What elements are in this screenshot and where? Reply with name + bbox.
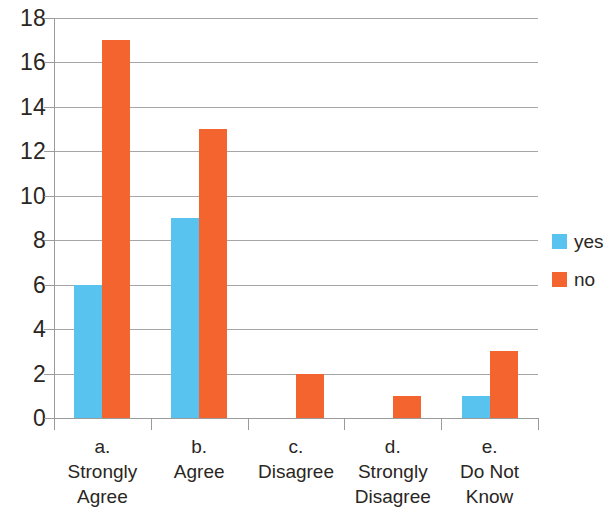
y-axis-tick xyxy=(44,418,54,419)
y-axis-tick-label: 12 xyxy=(4,140,46,163)
y-axis-tick-label: 8 xyxy=(4,229,46,252)
y-axis-tick xyxy=(44,240,54,241)
y-axis-tick xyxy=(44,285,54,286)
bar-no-0 xyxy=(102,40,130,418)
x-axis-category-line: a. xyxy=(54,434,151,459)
x-axis-tick xyxy=(248,419,249,430)
bar-no-1 xyxy=(199,129,227,418)
x-axis-category-line: e. xyxy=(441,434,538,459)
x-axis-category-line: Strongly xyxy=(54,459,151,484)
y-axis-tick xyxy=(44,107,54,108)
legend-label-no: no xyxy=(574,270,595,289)
y-axis-tick-label: 10 xyxy=(4,184,46,207)
x-axis-tick xyxy=(344,419,345,430)
x-axis-category-label: e.Do NotKnow xyxy=(441,434,538,509)
bar-no-2 xyxy=(296,374,324,418)
y-axis-tick-label: 4 xyxy=(4,318,46,341)
bar-yes-4 xyxy=(462,396,490,418)
x-axis-category-label: d.StronglyDisagree xyxy=(344,434,441,509)
y-axis-tick-label: 16 xyxy=(4,51,46,74)
x-axis-category-label: b.Agree xyxy=(151,434,248,484)
bar-chart: 181614121086420 a.StronglyAgreeb.Agreec.… xyxy=(0,0,616,515)
x-axis-category-line: Agree xyxy=(151,459,248,484)
x-axis-category-line: Do Not xyxy=(441,459,538,484)
y-axis-tick-label: 2 xyxy=(4,362,46,385)
plot-area xyxy=(54,18,538,418)
y-axis: 181614121086420 xyxy=(0,0,46,515)
y-axis-tick xyxy=(44,374,54,375)
legend-swatch-yes xyxy=(552,234,567,249)
x-axis-category-line: Agree xyxy=(54,484,151,509)
y-axis-tick-label: 18 xyxy=(4,7,46,30)
x-axis-category-label: a.StronglyAgree xyxy=(54,434,151,509)
legend-item-yes[interactable]: yes xyxy=(552,232,604,250)
x-axis-category-label: c.Disagree xyxy=(248,434,345,484)
y-axis-tick xyxy=(44,196,54,197)
x-axis-tick xyxy=(538,419,539,430)
bar-no-4 xyxy=(490,351,518,418)
legend-swatch-no xyxy=(552,272,567,287)
y-axis-tick-label: 0 xyxy=(4,407,46,430)
y-axis-tick-label: 6 xyxy=(4,273,46,296)
bar-yes-0 xyxy=(74,285,102,418)
x-axis-category-line: d. xyxy=(344,434,441,459)
x-axis-category-line: Disagree xyxy=(344,484,441,509)
x-axis-category-line: Disagree xyxy=(248,459,345,484)
y-axis-line xyxy=(54,18,55,419)
x-axis-category-line: Strongly xyxy=(344,459,441,484)
x-axis: a.StronglyAgreeb.Agreec.Disagreed.Strong… xyxy=(54,434,538,515)
y-axis-tick xyxy=(44,151,54,152)
y-axis-tick xyxy=(44,62,54,63)
x-axis-tick xyxy=(441,419,442,430)
x-axis-category-line: b. xyxy=(151,434,248,459)
y-axis-tick-label: 14 xyxy=(4,95,46,118)
bar-no-3 xyxy=(393,396,421,418)
legend-item-no[interactable]: no xyxy=(552,270,595,288)
y-axis-tick xyxy=(44,329,54,330)
x-axis-line xyxy=(44,418,539,419)
bar-yes-1 xyxy=(171,218,199,418)
gridline xyxy=(54,18,538,19)
x-axis-category-line: c. xyxy=(248,434,345,459)
legend-label-yes: yes xyxy=(574,232,604,251)
y-axis-tick xyxy=(44,18,54,19)
x-axis-category-line: Know xyxy=(441,484,538,509)
x-axis-tick xyxy=(54,419,55,430)
x-axis-tick xyxy=(151,419,152,430)
